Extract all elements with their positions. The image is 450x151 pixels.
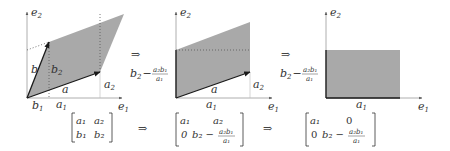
height-label-2: b2− a₂b₁ a₁: [280, 66, 318, 83]
e2-label: e2: [330, 6, 342, 20]
panel-rectangle: e2 e1 a1: [326, 6, 429, 114]
svg-text:a₁: a₁: [76, 115, 86, 126]
svg-text:a₁: a₁: [156, 75, 163, 83]
svg-text:a₂b₁: a₂b₁: [303, 66, 317, 74]
svg-text:a₁: a₁: [223, 137, 230, 145]
e1-label: e1: [418, 100, 429, 114]
rectangle: [326, 50, 400, 98]
svg-text:b₁: b₁: [76, 129, 86, 140]
matrix-1: a₁ a₂ b₁ b₂: [72, 113, 112, 142]
svg-text:a₂b₁: a₂b₁: [349, 128, 363, 136]
svg-text:0: 0: [311, 129, 317, 140]
implies-arrow-1: ⇒: [131, 48, 140, 61]
height-label-1: b2− a₂b₁ a₁: [130, 66, 168, 83]
svg-text:a₂: a₂: [213, 115, 223, 126]
matrix-2: a₁ a₂ 0 b₂ − a₂b₁ a₁: [176, 113, 243, 146]
label-a1: a1: [356, 98, 367, 112]
svg-text:a₂: a₂: [94, 115, 104, 126]
label-a1: a1: [56, 98, 67, 112]
e2-label: e2: [180, 6, 192, 20]
svg-text:b2−: b2−: [130, 67, 152, 81]
label-b: b: [31, 63, 38, 76]
e2-label: e2: [31, 6, 43, 20]
svg-text:0: 0: [181, 129, 188, 140]
label-a: a: [211, 83, 218, 96]
svg-text:b₂: b₂: [94, 129, 104, 140]
matrix-3: a₁ 0 0 b₂ − a₂b₁ a₁: [306, 113, 375, 146]
panel-sheared: e2 e1 a a2 a1: [176, 6, 279, 114]
label-a: a: [62, 83, 69, 96]
svg-text:b2−: b2−: [280, 67, 302, 81]
e1-label: e1: [118, 100, 129, 114]
panel-original: e2 e1 b b2 a a2 b1 a1: [27, 6, 129, 114]
label-a2: a2: [104, 78, 116, 92]
svg-text:a₁: a₁: [310, 115, 320, 126]
svg-text:0: 0: [346, 115, 352, 126]
e1-label: e1: [268, 100, 279, 114]
label-a1: a1: [206, 98, 217, 112]
implies-arrow-m2: ⇒: [263, 122, 272, 135]
label-b1: b1: [32, 99, 44, 113]
svg-text:a₁: a₁: [353, 137, 360, 145]
svg-text:a₂b₁: a₂b₁: [153, 66, 167, 74]
svg-text:a₁: a₁: [306, 75, 313, 83]
svg-text:b₂ −: b₂ −: [192, 129, 214, 140]
implies-arrow-2: ⇒: [281, 48, 290, 61]
label-a2: a2: [253, 78, 265, 92]
svg-text:a₂b₁: a₂b₁: [219, 128, 233, 136]
implies-arrow-m1: ⇒: [138, 122, 147, 135]
svg-text:a₁: a₁: [180, 115, 190, 126]
diagram-canvas: e2 e1 b b2 a a2 b1 a1 ⇒ b2− a₂b₁ a₁ e2 e…: [0, 0, 450, 151]
svg-text:b₂ −: b₂ −: [322, 129, 344, 140]
